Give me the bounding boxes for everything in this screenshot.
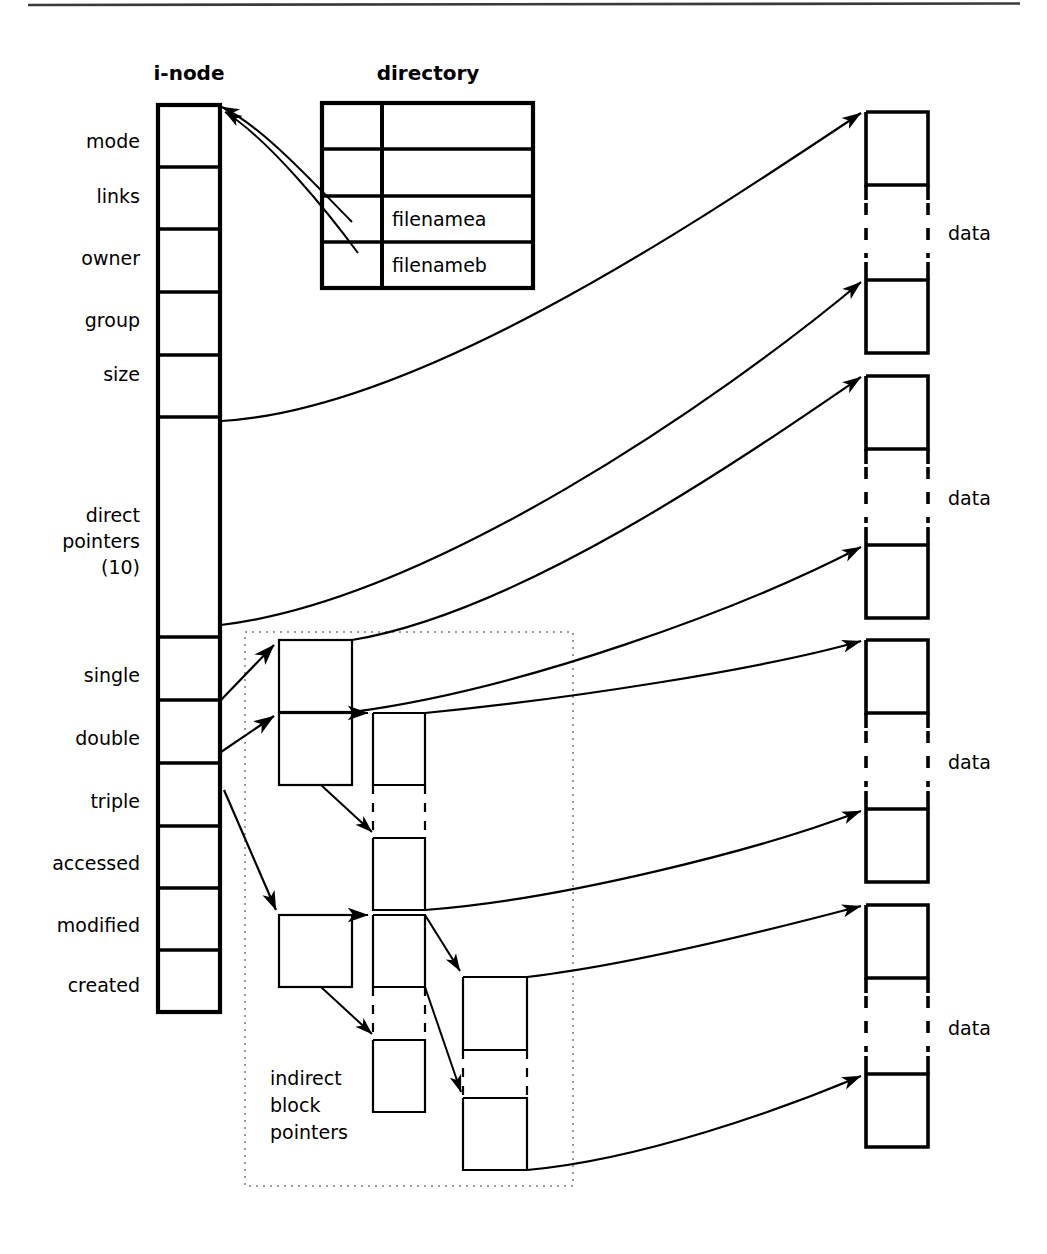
inode-label-created: created [68,974,140,996]
inode-label-accessed: accessed [52,852,140,874]
inode-label-size: size [103,363,140,385]
data-label-4: data [948,1017,991,1039]
inode-label-owner: owner [81,247,140,269]
inode-label-direct-line2: pointers [62,530,140,552]
inode-label-mode: mode [86,130,140,152]
directory-filename-b: filenameb [392,254,487,276]
inode-label-links: links [96,185,140,207]
inode-label-triple: triple [90,790,140,812]
inode-label-group: group [85,309,140,331]
page-rule [28,4,1020,6]
data-label-3: data [948,751,991,773]
figure-canvas: i-node directory mode links owner group … [0,0,1047,1254]
data-label-2: data [948,487,991,509]
inode-heading: i-node [153,61,224,85]
inode-label-double: double [75,727,140,749]
indirect-caption-line1: indirect [270,1067,342,1089]
indirect-caption-line3: pointers [270,1121,348,1143]
directory-heading: directory [377,61,480,85]
indirect-caption-line2: block [270,1094,320,1116]
inode-label-modified: modified [57,914,140,936]
inode-label-direct-line3: (10) [101,556,140,578]
inode-label-single: single [84,664,140,686]
data-label-1: data [948,222,991,244]
directory-filename-a: filenamea [392,208,486,230]
inode-label-direct-line1: direct [86,504,140,526]
